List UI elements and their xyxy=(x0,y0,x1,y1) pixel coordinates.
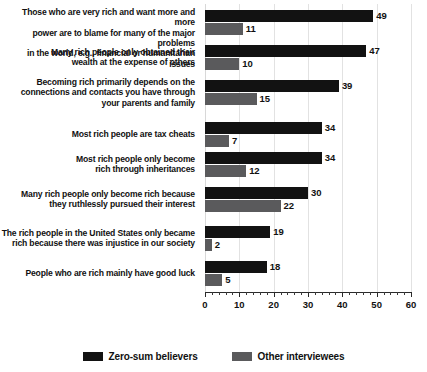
bar-wrapper: 47 xyxy=(205,45,427,57)
bar-other-interviewees xyxy=(205,23,243,35)
category-label-line: your parents and family xyxy=(0,98,195,108)
x-tick-38 xyxy=(335,292,336,295)
bar-other-interviewees xyxy=(205,165,246,177)
bar-value-label: 11 xyxy=(246,22,256,35)
x-tick-54 xyxy=(390,292,391,295)
bar-value-label: 22 xyxy=(284,199,294,212)
legend-label: Other interviewees xyxy=(258,351,345,362)
category-label-line: Becoming rich primarily depends on the xyxy=(0,77,195,87)
bar-value-label: 7 xyxy=(232,134,237,147)
bar-zero-sum-believers xyxy=(205,226,270,238)
bar-value-label: 30 xyxy=(311,186,321,199)
bar-zero-sum-believers xyxy=(205,261,267,273)
x-tick-46 xyxy=(363,292,364,295)
x-tick-34 xyxy=(322,292,323,295)
legend-label: Zero-sum believers xyxy=(109,351,198,362)
bar-zero-sum-believers xyxy=(205,152,322,164)
bar-group: 4911 xyxy=(205,10,427,36)
bar-zero-sum-believers xyxy=(205,122,322,134)
x-tick-label-20: 20 xyxy=(268,299,279,310)
x-tick-label-10: 10 xyxy=(234,299,245,310)
category-label-line: rich through inheritances xyxy=(0,164,195,174)
bar-wrapper: 18 xyxy=(205,261,427,273)
x-tick-4 xyxy=(219,292,220,295)
category-label-line: The rich people in the United States onl… xyxy=(0,228,195,238)
x-tick-40 xyxy=(342,292,343,297)
x-tick-44 xyxy=(356,292,357,295)
bar-value-label: 5 xyxy=(225,273,230,286)
x-tick-22 xyxy=(281,292,282,295)
x-tick-20 xyxy=(274,292,275,297)
x-tick-24 xyxy=(287,292,288,295)
category-label-line: power are to blame for many of the major… xyxy=(0,28,195,49)
bar-value-label: 47 xyxy=(369,44,379,57)
bar-group: 3915 xyxy=(205,80,427,106)
category-label-line: rich because there was injustice in our … xyxy=(0,238,195,248)
x-tick-8 xyxy=(232,292,233,295)
bar-value-label: 49 xyxy=(376,9,386,22)
category-label-line: Those who are very rich and want more an… xyxy=(0,7,195,28)
legend-swatch-icon xyxy=(232,352,252,361)
category-label: Most rich people are tax cheats xyxy=(0,129,195,139)
x-tick-label-60: 60 xyxy=(406,299,417,310)
bar-value-label: 15 xyxy=(260,92,270,105)
chart-legend: Zero-sum believersOther interviewees xyxy=(0,348,427,364)
bar-wrapper: 12 xyxy=(205,165,427,177)
x-tick-52 xyxy=(384,292,385,295)
legend-item-zero-sum-believers[interactable]: Zero-sum believers xyxy=(83,351,198,362)
bar-wrapper: 7 xyxy=(205,135,427,147)
bar-group: 185 xyxy=(205,261,427,287)
x-tick-label-0: 0 xyxy=(202,299,207,310)
category-label: Becoming rich primarily depends on theco… xyxy=(0,77,195,108)
category-label-line: Most rich people only become xyxy=(0,154,195,164)
x-tick-12 xyxy=(246,292,247,295)
category-label: People who are rich mainly have good luc… xyxy=(0,268,195,278)
x-tick-42 xyxy=(349,292,350,295)
bar-other-interviewees xyxy=(205,58,239,70)
bar-value-label: 10 xyxy=(242,57,252,70)
bar-value-label: 18 xyxy=(270,260,280,273)
bar-value-label: 34 xyxy=(325,151,335,164)
x-tick-6 xyxy=(226,292,227,295)
category-label-line: connections and contacts you have throug… xyxy=(0,87,195,97)
bar-group: 347 xyxy=(205,122,427,148)
x-tick-label-50: 50 xyxy=(371,299,382,310)
x-tick-2 xyxy=(212,292,213,295)
bar-other-interviewees xyxy=(205,135,229,147)
category-label: Most rich people only becomerich through… xyxy=(0,154,195,175)
horizontal-bar-chart: Those who are very rich and want more an… xyxy=(0,0,427,372)
bar-value-label: 12 xyxy=(249,164,259,177)
bar-group: 3412 xyxy=(205,152,427,178)
x-tick-0 xyxy=(205,292,206,297)
bar-wrapper: 22 xyxy=(205,200,427,212)
category-label-line: Most rich people are tax cheats xyxy=(0,129,195,139)
legend-item-other-interviewees[interactable]: Other interviewees xyxy=(232,351,345,362)
bar-group: 3022 xyxy=(205,187,427,213)
x-tick-label-30: 30 xyxy=(303,299,314,310)
x-tick-60 xyxy=(411,292,412,297)
plot-area: 49114710391534734123022192185 xyxy=(205,4,411,294)
category-label-line: they ruthlessly pursued their interest xyxy=(0,199,195,209)
bar-value-label: 34 xyxy=(325,121,335,134)
bar-wrapper: 19 xyxy=(205,226,427,238)
x-tick-30 xyxy=(308,292,309,297)
bar-group: 4710 xyxy=(205,45,427,71)
category-label: The rich people in the United States onl… xyxy=(0,228,195,249)
x-tick-32 xyxy=(315,292,316,295)
bar-other-interviewees xyxy=(205,239,212,251)
bar-other-interviewees xyxy=(205,93,257,105)
x-tick-50 xyxy=(377,292,378,297)
bar-value-label: 2 xyxy=(215,238,220,251)
x-tick-56 xyxy=(397,292,398,295)
category-label-column: Those who are very rich and want more an… xyxy=(0,4,199,294)
footnote-text xyxy=(2,366,425,372)
x-tick-36 xyxy=(329,292,330,295)
category-label-line: Many rich people only become rich becaus… xyxy=(0,189,195,199)
bar-wrapper: 34 xyxy=(205,122,427,134)
bar-wrapper: 15 xyxy=(205,93,427,105)
bar-wrapper: 34 xyxy=(205,152,427,164)
x-axis: 0102030405060 xyxy=(205,292,411,318)
category-label: Many rich people only obtained theirweal… xyxy=(0,47,195,68)
x-tick-58 xyxy=(404,292,405,295)
x-tick-48 xyxy=(370,292,371,295)
